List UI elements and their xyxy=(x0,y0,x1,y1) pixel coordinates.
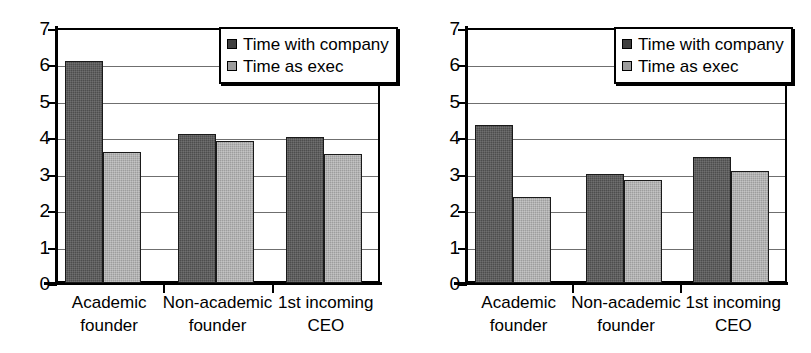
legend-item-time-as-exec: Time as exec xyxy=(622,55,784,77)
y-axis-tick-label: 5 xyxy=(438,91,460,110)
y-axis-right: 01234567 xyxy=(430,28,460,283)
legend-label-series-0: Time with company xyxy=(243,36,389,53)
bar-time-with-company xyxy=(693,157,731,283)
legend-label-series-0: Time with company xyxy=(638,36,784,53)
legend-swatch-icon-series-1 xyxy=(622,61,632,71)
bar-time-as-exec xyxy=(103,152,141,283)
two-panel-bar-chart-figure: 01234567 Time with company Time as exec … xyxy=(0,0,811,353)
chart-panel-right: 01234567 Time with company Time as exec … xyxy=(405,0,811,353)
y-axis-tick-label: 1 xyxy=(438,237,460,256)
y-axis-tick-label: 7 xyxy=(438,19,460,38)
y-axis-tick-label: 6 xyxy=(28,55,50,74)
bar-time-with-company xyxy=(475,125,513,283)
legend-item-time-with-company: Time with company xyxy=(227,33,389,55)
legend-item-time-with-company: Time with company xyxy=(622,33,784,55)
bar-time-as-exec xyxy=(731,171,769,283)
x-axis-category-labels-left: AcademicfounderNon-academicfounder1st in… xyxy=(55,292,380,348)
y-axis-tick-label: 1 xyxy=(28,237,50,256)
bar-time-as-exec xyxy=(513,197,551,283)
bar-time-with-company xyxy=(178,134,216,283)
y-axis-tick-label: 6 xyxy=(438,55,460,74)
legend-right: Time with company Time as exec xyxy=(614,27,793,84)
legend-label-series-1: Time as exec xyxy=(243,58,343,75)
bar-time-as-exec xyxy=(624,180,662,283)
bar-time-as-exec xyxy=(216,141,254,283)
legend-label-series-1: Time as exec xyxy=(638,58,738,75)
legend-swatch-icon-series-0 xyxy=(227,39,237,49)
y-axis-left: 01234567 xyxy=(20,28,50,283)
y-axis-tick-label: 2 xyxy=(438,201,460,220)
x-axis-category-label: 1st incomingCEO xyxy=(670,292,797,338)
bar-time-with-company xyxy=(286,137,324,283)
chart-panel-left: 01234567 Time with company Time as exec … xyxy=(0,0,406,353)
y-axis-tick-label: 4 xyxy=(28,128,50,147)
bar-time-as-exec xyxy=(324,154,362,283)
legend-swatch-icon-series-1 xyxy=(227,61,237,71)
y-axis-tick-label: 2 xyxy=(28,201,50,220)
legend-swatch-icon-series-0 xyxy=(622,39,632,49)
bar-time-with-company xyxy=(65,61,103,283)
x-axis-category-label: 1st incomingCEO xyxy=(262,292,390,338)
legend-item-time-as-exec: Time as exec xyxy=(227,55,389,77)
y-axis-tick-label: 4 xyxy=(438,128,460,147)
y-axis-tick-label: 7 xyxy=(28,19,50,38)
y-axis-tick-label: 3 xyxy=(28,164,50,183)
y-axis-tick-label: 5 xyxy=(28,91,50,110)
legend-left: Time with company Time as exec xyxy=(219,27,398,84)
y-axis-tick-label: 3 xyxy=(438,164,460,183)
x-axis-category-labels-right: AcademicfounderNon-academicfounder1st in… xyxy=(465,292,787,348)
bar-time-with-company xyxy=(586,174,624,283)
